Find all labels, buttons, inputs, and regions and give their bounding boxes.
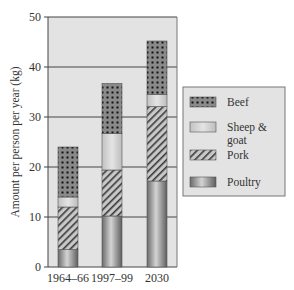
bar-segment-pork xyxy=(58,207,78,250)
legend-label: goat xyxy=(227,134,248,147)
legend-swatch xyxy=(190,122,216,132)
plot-area xyxy=(44,17,177,267)
bar-segment-poultry xyxy=(58,250,78,268)
bar-segment-pork xyxy=(102,170,122,216)
legend-label: Sheep & xyxy=(227,121,267,134)
legend: BeefSheep &goatPorkPoultry xyxy=(183,87,285,196)
bar-segment-beef xyxy=(58,147,78,197)
y-axis: 01020304050 xyxy=(29,10,41,274)
legend-label: Pork xyxy=(227,149,249,161)
y-tick-label: 0 xyxy=(35,260,41,274)
legend-label: Poultry xyxy=(227,176,261,189)
y-axis-label: Amount per person per year (kg) xyxy=(9,66,22,217)
y-tick-label: 10 xyxy=(29,210,41,224)
bar-segment-poultry xyxy=(147,181,167,267)
x-tick-label: 1997–99 xyxy=(91,271,133,285)
bar-segment-sheep-goat xyxy=(147,95,167,107)
legend-swatch xyxy=(190,177,216,187)
bar-stack xyxy=(102,84,122,268)
bar-segment-poultry xyxy=(102,216,122,267)
bar-segment-pork xyxy=(147,107,167,182)
legend-swatch xyxy=(190,150,216,160)
x-tick-label: 1964–66 xyxy=(47,271,89,285)
y-tick-label: 50 xyxy=(29,10,41,24)
bar-stack xyxy=(58,147,78,267)
bar-segment-beef xyxy=(147,41,167,95)
x-tick-label: 2030 xyxy=(145,271,169,285)
legend-swatch xyxy=(190,97,216,107)
y-tick-label: 30 xyxy=(29,110,41,124)
y-tick-label: 40 xyxy=(29,60,41,74)
stacked-bar-chart: 01020304050 1964–661997–992030 Amount pe… xyxy=(0,0,294,290)
bar-segment-beef xyxy=(102,84,122,134)
bar-segment-sheep-goat xyxy=(58,197,78,207)
bar-stack xyxy=(147,41,167,267)
y-tick-label: 20 xyxy=(29,160,41,174)
x-axis: 1964–661997–992030 xyxy=(47,271,169,285)
bar-segment-sheep-goat xyxy=(102,134,122,171)
legend-label: Beef xyxy=(227,96,249,108)
